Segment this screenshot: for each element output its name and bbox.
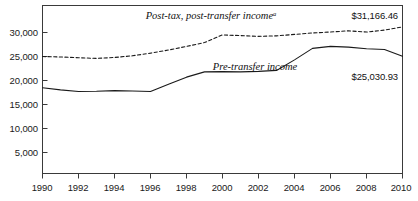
post-tax-series-label-superscript: a <box>273 10 276 17</box>
x-axis-label-2008: 2008 <box>356 182 377 193</box>
y-axis-label-10000: 10,000 <box>10 123 38 134</box>
x-axis-ticks <box>43 174 403 179</box>
x-axis-label-2006: 2006 <box>320 182 341 193</box>
x-axis-labels: 1990 1992 1994 1996 1998 2000 2002 2004 … <box>32 182 412 193</box>
post-tax-series-label-text: Post-tax, post-transfer income <box>145 10 274 21</box>
x-axis-label-2002: 2002 <box>248 182 269 193</box>
x-axis-label-1998: 1998 <box>176 182 197 193</box>
y-axis-label-25000: 25,000 <box>10 51 38 62</box>
y-axis-label-30000: 30,000 <box>10 27 38 38</box>
post-tax-series-label: Post-tax, post-transfer incomea <box>145 10 277 21</box>
line-chart: 5,000 10,000 15,000 20,000 25,000 30,000… <box>0 0 418 201</box>
post-tax-end-value-label: $31,166.46 <box>351 10 398 21</box>
y-axis-labels: 5,000 10,000 15,000 20,000 25,000 30,000 <box>10 27 38 158</box>
x-axis-label-1990: 1990 <box>32 182 53 193</box>
x-axis-label-2000: 2000 <box>212 182 233 193</box>
x-axis-label-1994: 1994 <box>104 182 125 193</box>
x-axis-label-1992: 1992 <box>68 182 89 193</box>
pre-transfer-series-label: Pre-transfer income <box>212 61 298 72</box>
y-axis-label-15000: 15,000 <box>10 99 38 110</box>
y-axis-label-20000: 20,000 <box>10 75 38 86</box>
x-axis-label-2010: 2010 <box>391 182 412 193</box>
pre-transfer-end-value-label: $25,030.93 <box>351 71 398 82</box>
chart-canvas: 5,000 10,000 15,000 20,000 25,000 30,000… <box>0 0 418 201</box>
x-axis-label-2004: 2004 <box>284 182 305 193</box>
y-axis-label-5000: 5,000 <box>15 147 38 158</box>
x-axis-label-1996: 1996 <box>140 182 161 193</box>
